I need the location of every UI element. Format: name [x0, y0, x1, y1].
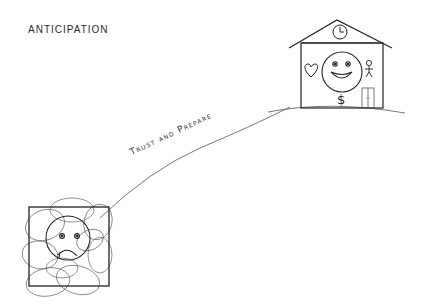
drawing-canvas: $: [0, 0, 424, 306]
clock-icon: [333, 25, 347, 39]
person-icon: [365, 60, 373, 77]
smiley-face-icon: [322, 52, 362, 92]
house-roof: [289, 20, 392, 48]
chaos-loops: [20, 198, 116, 300]
heart-icon: [305, 64, 318, 77]
hill-line: [268, 106, 405, 113]
dollar-sign-icon: $: [337, 92, 345, 107]
box-frame: [29, 207, 109, 286]
door-icon: [362, 88, 374, 108]
